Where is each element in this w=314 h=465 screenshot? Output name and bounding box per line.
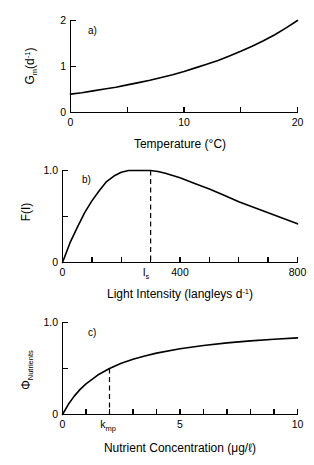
panel-b-y-axis-title: F(I) (19, 203, 33, 222)
panel-c-kmp-label: kmp (100, 418, 116, 433)
panel-b-ylabel: F(I) (19, 203, 33, 222)
panel-a-y-axis-title: Gm(d-1) (23, 48, 39, 85)
panel-a: a) 2 1 0 0 10 20 Gm(d-1) Temperature (°C… (0, 0, 314, 155)
panel-c-tag: c) (88, 327, 96, 338)
panel-a-ylabel-unit-sup: -1 (23, 52, 32, 59)
panel-c-kmp-sub: mp (105, 424, 115, 433)
panel-b-xlabel-close: ) (249, 287, 253, 301)
panel-c-ytick-label-0: 0 (52, 408, 58, 420)
panel-c-xtick-label-10: 10 (292, 418, 304, 430)
panel-b-data-line (63, 171, 298, 263)
panel-b-x-axis-title: Light Intensity (langleys d-1) (107, 287, 253, 301)
panel-a-ylabel-base: G (23, 75, 37, 84)
panel-b-ytick-label-0: 0 (52, 256, 58, 268)
panel-b-is-label: Is (143, 266, 150, 281)
panel-b-tag: b) (82, 174, 91, 185)
panel-c-ytick-label-1: 1.0 (43, 316, 58, 328)
panel-c-y-axis-title: ΦNutrients (19, 350, 35, 390)
panel-b-xlabel-main: Light Intensity (langleys d (107, 287, 242, 301)
panel-b-xlabel-sup: -1 (242, 287, 249, 296)
panel-c-data-line (63, 338, 298, 415)
panel-a-tag: a) (88, 25, 97, 36)
panel-b-plot: b) 1.0 0 0 400 800 Is F(I) Light Intensi… (0, 150, 314, 310)
panel-c-xtick-label-5: 5 (177, 418, 183, 430)
panel-a-ylabel-unit-open: (d (23, 58, 37, 69)
panel-b-is-sub: s (146, 272, 150, 281)
panel-a-ytick-label-2: 2 (60, 14, 66, 26)
panel-a-x-axis-title: Temperature (°C) (134, 137, 226, 151)
panel-c-xtick-label-0: 0 (60, 418, 66, 430)
panel-c-x-axis-title: Nutrient Concentration (μg/ℓ) (104, 441, 256, 455)
panel-a-ytick-label-0: 0 (60, 106, 66, 118)
panel-b-ytick-label-1: 1.0 (43, 164, 58, 176)
panel-a-xtick-label-10: 10 (178, 116, 190, 128)
panel-c-plot: c) 1.0 0 0 5 10 kmp ΦNutrients Nutrient … (0, 300, 314, 465)
panel-a-ylabel-unit-close: ) (23, 48, 37, 52)
svg-text:ΦNutrients: ΦNutrients (19, 350, 35, 390)
panel-b: b) 1.0 0 0 400 800 Is F(I) Light Intensi… (0, 150, 314, 310)
panel-c: c) 1.0 0 0 5 10 kmp ΦNutrients Nutrient … (0, 300, 314, 465)
panel-b-xtick-label-400: 400 (171, 266, 189, 278)
panel-c-ylabel-sub: Nutrients (26, 350, 35, 380)
panel-c-ylabel-base: Φ (19, 380, 33, 390)
panel-a-data-line (71, 21, 298, 95)
panel-b-xtick-label-800: 800 (289, 266, 307, 278)
figure-root: a) 2 1 0 0 10 20 Gm(d-1) Temperature (°C… (0, 0, 314, 465)
panel-b-xtick-label-0: 0 (60, 266, 66, 278)
panel-a-ytick-label-1: 1 (60, 60, 66, 72)
panel-a-xtick-label-0: 0 (68, 116, 74, 128)
svg-text:Gm(d-1): Gm(d-1) (23, 48, 39, 85)
panel-a-xtick-label-20: 20 (292, 116, 304, 128)
panel-a-plot: a) 2 1 0 0 10 20 Gm(d-1) Temperature (°C… (0, 0, 314, 155)
